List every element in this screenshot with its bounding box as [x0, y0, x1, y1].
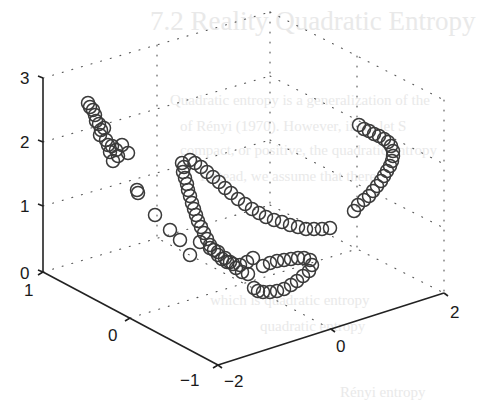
x-tick-2: 2: [450, 303, 459, 322]
data-point-marker: [174, 234, 187, 247]
data-point-marker: [300, 223, 313, 236]
data-point-marker: [292, 221, 305, 234]
data-point-marker: [276, 216, 289, 229]
y-axis: [43, 272, 218, 365]
data-point-marker: [184, 249, 197, 262]
z-tick-3: 3: [20, 69, 29, 88]
z-tick-2: 2: [20, 133, 29, 152]
tick-labels: 3 2 1 0 1 0 −1 −2 0 2: [20, 69, 459, 391]
data-point-marker: [204, 242, 217, 255]
x-tick-neg2: −2: [224, 372, 243, 391]
z-tick-1: 1: [20, 197, 29, 216]
x-tick-0: 0: [336, 337, 345, 356]
data-point-marker: [308, 223, 321, 236]
y-tick-0: 0: [108, 326, 117, 345]
y-tick-1: 1: [24, 281, 33, 300]
data-point-marker: [149, 209, 162, 222]
data-point-marker: [268, 214, 281, 227]
y-tick-neg1: −1: [180, 371, 199, 390]
grid-lines: [43, 12, 444, 329]
scatter3d-plot: 3 2 1 0 1 0 −1 −2 0 2: [0, 0, 491, 407]
data-markers: [82, 97, 400, 299]
data-point-marker: [284, 219, 297, 232]
data-point-marker: [164, 224, 177, 237]
data-point-marker: [324, 222, 337, 235]
